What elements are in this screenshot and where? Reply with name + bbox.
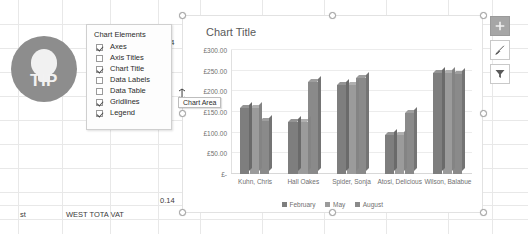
chart-title[interactable]: Chart Title xyxy=(206,26,256,38)
bar-front-face xyxy=(385,135,394,174)
bar-side-face xyxy=(298,116,301,171)
category-axis-tick-label: Hall Oakes xyxy=(287,178,319,185)
legend-label: August xyxy=(363,201,383,208)
bar-front-face xyxy=(337,85,346,174)
selection-handle-top-center[interactable] xyxy=(329,12,336,19)
bar-front-face xyxy=(433,73,442,174)
bar-side-face xyxy=(452,67,455,171)
legend-label: February xyxy=(289,201,315,208)
legend-swatch xyxy=(325,202,330,207)
selection-handle-top-right[interactable] xyxy=(480,12,487,19)
bar-side-face xyxy=(346,79,349,171)
chart-area-tooltip: Chart Area xyxy=(178,97,221,108)
chart-element-label: Axes xyxy=(110,42,127,51)
bar-data-point[interactable] xyxy=(337,85,346,174)
chart-element-row[interactable]: Chart Title xyxy=(87,64,171,75)
bar-side-face xyxy=(442,67,445,171)
bar-side-face xyxy=(249,102,252,171)
chart-legend[interactable]: FebruaryMayAugust xyxy=(183,200,482,208)
category-axis-tick-label: Atosi, Delicious xyxy=(377,178,421,185)
bar-data-point[interactable] xyxy=(288,122,297,174)
grid-column-line xyxy=(62,0,63,234)
checkbox-icon[interactable] xyxy=(96,77,103,84)
selection-handle-bottom-center[interactable] xyxy=(329,209,336,216)
chart-element-label: Data Labels xyxy=(110,75,150,84)
chart-elements-title: Chart Elements xyxy=(94,30,146,39)
bar-side-face xyxy=(308,116,311,171)
legend-item[interactable]: August xyxy=(355,200,383,208)
bar-side-face xyxy=(404,129,407,171)
chart-element-row[interactable]: Axis Titles xyxy=(87,53,171,64)
bar-side-face xyxy=(366,72,369,171)
chart-filters-button[interactable] xyxy=(490,64,510,84)
value-axis-tick-label: £150.00 xyxy=(204,109,228,116)
bar-side-face xyxy=(414,107,417,171)
value-axis-tick-label: £50.00 xyxy=(207,150,227,157)
chart-element-row[interactable]: Legend xyxy=(87,108,171,119)
chart-elements-button[interactable] xyxy=(490,16,510,36)
value-axis-line xyxy=(231,50,232,174)
selection-handle-bottom-left[interactable] xyxy=(179,209,186,216)
category-axis-tick-label: Wilson, Balabue xyxy=(424,178,471,185)
selection-handle-bottom-right[interactable] xyxy=(480,209,487,216)
bar-side-face xyxy=(394,129,397,171)
bar-side-face xyxy=(356,79,359,171)
value-axis-tick-label: £300.00 xyxy=(204,47,228,54)
chart-element-label: Legend xyxy=(110,108,135,117)
bar-side-face xyxy=(269,115,272,171)
bar-front-face xyxy=(240,108,249,174)
checkbox-icon[interactable] xyxy=(96,110,103,117)
chart-elements-list: AxesAxis TitlesChart TitleData LabelsDat… xyxy=(87,42,171,119)
value-axis-tick-label: £100.00 xyxy=(204,129,228,136)
plot-area[interactable]: £-£50.00£100.00£150.00£200.00£250.00£300… xyxy=(231,50,472,174)
chart-element-label: Chart Title xyxy=(110,64,144,73)
checkbox-icon[interactable] xyxy=(96,66,103,73)
bar-side-face xyxy=(462,68,465,171)
legend-label: May xyxy=(333,201,345,208)
value-axis-tick-label: £250.00 xyxy=(204,67,228,74)
chart-element-row[interactable]: Data Labels xyxy=(87,75,171,86)
chart-elements-panel[interactable]: Chart Elements AxesAxis TitlesChart Titl… xyxy=(86,24,172,130)
bar-data-point[interactable] xyxy=(433,73,442,174)
legend-item[interactable]: February xyxy=(282,200,316,208)
bar-data-point[interactable] xyxy=(240,108,249,174)
gridline xyxy=(231,49,472,50)
checkbox-icon[interactable] xyxy=(96,55,103,62)
chart-element-row[interactable]: Gridlines xyxy=(87,97,171,108)
chart-element-label: Gridlines xyxy=(110,97,140,106)
chart-element-row[interactable]: Data Table xyxy=(87,86,171,97)
selection-handle-middle-right[interactable] xyxy=(480,110,487,117)
tip-badge: TIP xyxy=(11,36,77,102)
chart-element-label: Data Table xyxy=(110,86,146,95)
chart-object[interactable]: Chart Title £-£50.00£100.00£150.00£200.0… xyxy=(182,15,483,213)
category-axis-tick-label: Kuhn, Chris xyxy=(238,178,272,185)
spreadsheet-cell[interactable]: st xyxy=(20,210,26,219)
bar-side-face xyxy=(318,76,321,171)
spreadsheet-cell[interactable]: 0.14 xyxy=(160,196,175,205)
grid-column-line xyxy=(18,0,19,234)
value-axis-tick-label: £- xyxy=(221,171,227,178)
legend-swatch xyxy=(282,202,287,207)
checkbox-icon[interactable] xyxy=(96,99,103,106)
legend-swatch xyxy=(355,202,360,207)
chart-element-label: Axis Titles xyxy=(110,53,144,62)
legend-item[interactable]: May xyxy=(325,200,345,208)
checkbox-icon[interactable] xyxy=(96,44,103,51)
value-axis-tick-label: £200.00 xyxy=(204,88,228,95)
bar-front-face xyxy=(288,122,297,174)
grid-row-line xyxy=(0,219,528,220)
checkbox-icon[interactable] xyxy=(96,88,103,95)
selection-handle-top-left[interactable] xyxy=(179,12,186,19)
tip-label: TIP xyxy=(11,71,77,91)
chart-floating-buttons xyxy=(490,16,512,88)
chart-element-row[interactable]: Axes xyxy=(87,42,171,53)
selection-handle-middle-left[interactable] xyxy=(179,110,186,117)
bar-data-point[interactable] xyxy=(385,135,394,174)
spreadsheet-cell[interactable]: WEST TOTA VAT xyxy=(66,210,124,219)
bar-side-face xyxy=(259,102,262,171)
category-axis-tick-label: Spider, Sonja xyxy=(332,178,371,185)
chart-styles-button[interactable] xyxy=(490,40,510,60)
